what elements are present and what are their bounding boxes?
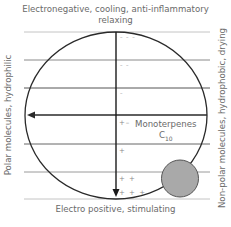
molecule-ball — [162, 160, 199, 197]
compound-label: Monoterpenes C10 — [135, 119, 197, 144]
charge-mark-5: + — [119, 148, 126, 155]
charge-mark-1: – – – — [120, 35, 136, 40]
right-label: Non-polar molecules, hydrophobic, drying — [218, 28, 227, 208]
compound-name: Monoterpenes — [135, 119, 197, 130]
charge-mark-6: + + — [119, 176, 136, 183]
diagram-canvas — [0, 0, 231, 227]
bottom-label: Electro positive, stimulating — [0, 205, 231, 214]
top-label-line2: relaxing — [0, 15, 231, 26]
compound-formula: C10 — [135, 130, 197, 144]
charge-mark-2: – – — [120, 63, 130, 68]
left-arrowhead-icon — [27, 112, 35, 119]
charge-mark-3: – — [120, 91, 124, 96]
top-label-line1: Electronegative, cooling, anti-inflammat… — [0, 4, 231, 15]
charge-mark-7: + + + — [119, 190, 146, 197]
left-label: Polar molecules, hydrophilic — [4, 55, 13, 176]
top-label: Electronegative, cooling, anti-inflammat… — [0, 4, 231, 26]
charge-mark-4: +– — [119, 120, 130, 127]
